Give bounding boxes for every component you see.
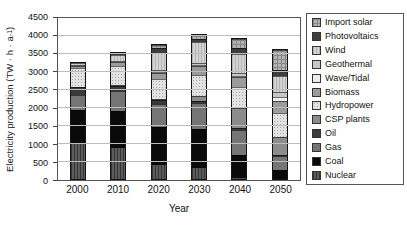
x-tick-label-2050: 2050 <box>260 184 301 195</box>
segment-nuclear-2010 <box>111 148 125 179</box>
y-tick-mark-1500 <box>53 126 57 127</box>
y-tick-mark-4000 <box>53 35 57 36</box>
segment-import-solar-2040 <box>232 39 246 48</box>
legend-label-wave-tidal: Wave/Tidal <box>325 74 369 83</box>
legend-item-csp-plants: CSP plants <box>312 115 401 124</box>
legend-swatch-import-solar <box>312 18 321 27</box>
legend-item-photovoltaics: Photovoltaics <box>312 32 401 41</box>
legend-item-wind: Wind <box>312 46 401 55</box>
y-tick-mark-500 <box>53 162 57 163</box>
legend-swatch-biomass <box>312 88 321 97</box>
segment-coal-2000 <box>71 110 85 143</box>
bar-slot-2040 <box>219 18 259 180</box>
segment-wind-2020 <box>152 53 166 71</box>
chart-figure: Electricity production (TW · h · a-1) 05… <box>0 0 407 225</box>
segment-nuclear-2030 <box>192 168 206 179</box>
y-tick-mark-3500 <box>53 53 57 54</box>
x-axis-title: Year <box>57 203 301 214</box>
gridline-1500 <box>58 125 300 126</box>
y-tick-label-1500: 1500 <box>28 122 48 131</box>
segment-wind-2040 <box>232 54 246 72</box>
x-axis: 200020102020203020402050 <box>57 184 301 195</box>
x-tick-label-2000: 2000 <box>57 184 98 195</box>
legend-label-nuclear: Nuclear <box>325 171 356 180</box>
legend-label-csp-plants: CSP plants <box>325 115 370 124</box>
y-tick-mark-1000 <box>53 144 57 145</box>
legend-label-gas: Gas <box>325 143 342 152</box>
legend-item-geothermal: Geothermal <box>312 60 401 69</box>
x-tick-label-2030: 2030 <box>179 184 220 195</box>
y-tick-label-3500: 3500 <box>28 49 48 58</box>
segment-coal-2050 <box>273 170 287 179</box>
legend-item-oil: Oil <box>312 129 401 138</box>
bar-slot-2010 <box>98 18 138 180</box>
y-tick-label-0: 0 <box>43 177 48 186</box>
segment-hydropower-2030 <box>192 75 206 96</box>
bar-2000 <box>70 62 86 180</box>
gridline-2000 <box>58 107 300 108</box>
legend-swatch-csp-plants <box>312 115 321 124</box>
legend-label-geothermal: Geothermal <box>325 60 372 69</box>
legend-item-gas: Gas <box>312 143 401 152</box>
segment-hydropower-2040 <box>232 87 246 108</box>
legend-item-nuclear: Nuclear <box>312 171 401 180</box>
plot-area <box>57 17 301 181</box>
gridline-1000 <box>58 143 300 144</box>
legend-label-biomass: Biomass <box>325 88 360 97</box>
bar-slot-2030 <box>179 18 219 180</box>
legend-item-coal: Coal <box>312 157 401 166</box>
legend-item-hydropower: Hydropower <box>312 101 401 110</box>
legend-item-wave-tidal: Wave/Tidal <box>312 74 401 83</box>
segment-gas-2050 <box>273 156 287 171</box>
legend-label-wind: Wind <box>325 46 346 55</box>
y-tick-label-2000: 2000 <box>28 104 48 113</box>
gridline-4000 <box>58 35 300 36</box>
legend-swatch-hydropower <box>312 101 321 110</box>
legend-item-biomass: Biomass <box>312 88 401 97</box>
y-axis-title-suffix: ) <box>4 26 15 29</box>
legend-swatch-gas <box>312 143 321 152</box>
bar-slot-2050 <box>260 18 300 180</box>
bar-slot-2020 <box>139 18 179 180</box>
y-tick-label-3000: 3000 <box>28 67 48 76</box>
y-tick-label-500: 500 <box>33 158 48 167</box>
gridline-2500 <box>58 89 300 90</box>
legend-label-hydropower: Hydropower <box>325 101 374 110</box>
segment-nuclear-2040 <box>232 178 246 179</box>
y-tick-mark-0 <box>53 180 57 181</box>
y-tick-label-4500: 4500 <box>28 13 48 22</box>
segment-coal-2040 <box>232 155 246 178</box>
y-tick-mark-2000 <box>53 108 57 109</box>
y-axis-title-text: Electricity production (TW · h · a <box>4 36 15 172</box>
segment-coal-2010 <box>111 111 125 148</box>
legend-item-import-solar: Import solar <box>312 18 401 27</box>
y-axis-title: Electricity production (TW · h · a-1) <box>2 10 16 188</box>
legend-label-coal: Coal <box>325 157 344 166</box>
y-axis: 050010001500200025003000350040004500 <box>18 17 53 181</box>
segment-coal-2020 <box>152 127 166 165</box>
y-tick-mark-2500 <box>53 89 57 90</box>
legend-label-oil: Oil <box>325 129 336 138</box>
segment-coal-2030 <box>192 129 206 168</box>
legend-label-photovoltaics: Photovoltaics <box>325 32 379 41</box>
bar-2020 <box>151 44 167 180</box>
legend-swatch-photovoltaics <box>312 32 321 41</box>
y-tick-mark-4500 <box>53 17 57 18</box>
legend-swatch-nuclear <box>312 171 321 180</box>
y-axis-title-sup: -1 <box>6 30 13 36</box>
legend-swatch-wave-tidal <box>312 74 321 83</box>
gridline-500 <box>58 161 300 162</box>
segment-biomass-2040 <box>232 77 246 87</box>
legend-swatch-wind <box>312 46 321 55</box>
x-tick-label-2020: 2020 <box>138 184 179 195</box>
y-tick-label-2500: 2500 <box>28 85 48 94</box>
gridline-3000 <box>58 71 300 72</box>
x-tick-label-2010: 2010 <box>98 184 139 195</box>
x-tick-label-2040: 2040 <box>220 184 261 195</box>
bars-container <box>58 18 300 180</box>
y-tick-mark-3000 <box>53 71 57 72</box>
bar-slot-2000 <box>58 18 98 180</box>
segment-csp-plants-2050 <box>273 137 287 155</box>
y-tick-label-4000: 4000 <box>28 31 48 40</box>
legend-swatch-coal <box>312 157 321 166</box>
